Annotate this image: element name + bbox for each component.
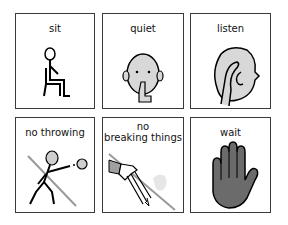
- card-sit[interactable]: sit: [15, 13, 95, 109]
- listening-ear-icon: [191, 14, 272, 110]
- card-no-throwing[interactable]: no throwing: [15, 117, 95, 213]
- card-no-breaking-things[interactable]: no breaking things: [102, 117, 184, 213]
- card-listen[interactable]: listen: [190, 13, 271, 109]
- card-wait[interactable]: wait: [190, 117, 271, 213]
- no-throwing-icon: [16, 118, 96, 214]
- card-quiet[interactable]: quiet: [102, 13, 184, 109]
- no-breaking-icon: [103, 118, 185, 214]
- hand-wait-icon: [191, 118, 272, 214]
- sitting-person-icon: [16, 14, 96, 110]
- quiet-face-icon: [103, 14, 185, 110]
